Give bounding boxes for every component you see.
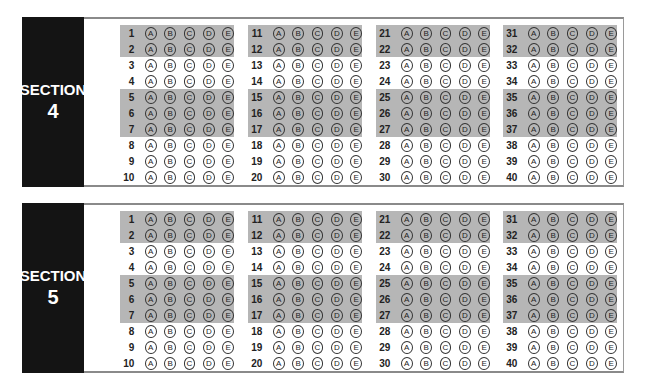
answer-bubble-b[interactable]: B — [420, 123, 432, 136]
answer-bubble-c[interactable]: C — [184, 357, 196, 370]
answer-bubble-d[interactable]: D — [459, 261, 471, 274]
answer-bubble-a[interactable]: A — [273, 59, 285, 72]
answer-bubble-e[interactable]: E — [222, 245, 234, 258]
answer-bubble-e[interactable]: E — [350, 123, 362, 136]
answer-bubble-e[interactable]: E — [222, 139, 234, 152]
answer-bubble-b[interactable]: B — [292, 341, 304, 354]
answer-bubble-a[interactable]: A — [401, 43, 413, 56]
answer-bubble-d[interactable]: D — [586, 213, 598, 226]
answer-bubble-e[interactable]: E — [478, 277, 490, 290]
answer-bubble-d[interactable]: D — [331, 341, 343, 354]
answer-bubble-b[interactable]: B — [547, 91, 559, 104]
answer-bubble-e[interactable]: E — [350, 43, 362, 56]
answer-bubble-d[interactable]: D — [459, 171, 471, 184]
answer-bubble-e[interactable]: E — [478, 229, 490, 242]
answer-bubble-a[interactable]: A — [273, 91, 285, 104]
answer-bubble-c[interactable]: C — [312, 325, 324, 338]
answer-bubble-d[interactable]: D — [459, 155, 471, 168]
answer-bubble-b[interactable]: B — [547, 309, 559, 322]
answer-bubble-c[interactable]: C — [312, 293, 324, 306]
answer-bubble-e[interactable]: E — [350, 357, 362, 370]
answer-bubble-b[interactable]: B — [164, 309, 176, 322]
answer-bubble-c[interactable]: C — [312, 261, 324, 274]
answer-bubble-d[interactable]: D — [459, 59, 471, 72]
answer-bubble-e[interactable]: E — [350, 341, 362, 354]
answer-bubble-b[interactable]: B — [420, 229, 432, 242]
answer-bubble-d[interactable]: D — [203, 139, 215, 152]
answer-bubble-d[interactable]: D — [459, 213, 471, 226]
answer-bubble-c[interactable]: C — [184, 123, 196, 136]
answer-bubble-e[interactable]: E — [605, 91, 617, 104]
answer-bubble-c[interactable]: C — [567, 309, 579, 322]
answer-bubble-b[interactable]: B — [420, 245, 432, 258]
answer-bubble-c[interactable]: C — [440, 59, 452, 72]
answer-bubble-c[interactable]: C — [184, 261, 196, 274]
answer-bubble-b[interactable]: B — [164, 293, 176, 306]
answer-bubble-d[interactable]: D — [459, 229, 471, 242]
answer-bubble-b[interactable]: B — [292, 261, 304, 274]
answer-bubble-a[interactable]: A — [273, 27, 285, 40]
answer-bubble-e[interactable]: E — [478, 309, 490, 322]
answer-bubble-c[interactable]: C — [184, 277, 196, 290]
answer-bubble-a[interactable]: A — [401, 277, 413, 290]
answer-bubble-d[interactable]: D — [331, 91, 343, 104]
answer-bubble-a[interactable]: A — [528, 261, 540, 274]
answer-bubble-c[interactable]: C — [184, 229, 196, 242]
answer-bubble-b[interactable]: B — [164, 123, 176, 136]
answer-bubble-e[interactable]: E — [605, 245, 617, 258]
answer-bubble-d[interactable]: D — [586, 171, 598, 184]
answer-bubble-e[interactable]: E — [222, 309, 234, 322]
answer-bubble-d[interactable]: D — [203, 27, 215, 40]
answer-bubble-d[interactable]: D — [331, 107, 343, 120]
answer-bubble-b[interactable]: B — [164, 325, 176, 338]
answer-bubble-c[interactable]: C — [567, 341, 579, 354]
answer-bubble-e[interactable]: E — [350, 155, 362, 168]
answer-bubble-a[interactable]: A — [401, 75, 413, 88]
answer-bubble-b[interactable]: B — [420, 341, 432, 354]
answer-bubble-b[interactable]: B — [292, 245, 304, 258]
answer-bubble-c[interactable]: C — [567, 261, 579, 274]
answer-bubble-a[interactable]: A — [145, 277, 157, 290]
answer-bubble-e[interactable]: E — [605, 229, 617, 242]
answer-bubble-e[interactable]: E — [478, 155, 490, 168]
answer-bubble-c[interactable]: C — [184, 155, 196, 168]
answer-bubble-e[interactable]: E — [478, 91, 490, 104]
answer-bubble-a[interactable]: A — [145, 325, 157, 338]
answer-bubble-b[interactable]: B — [164, 59, 176, 72]
answer-bubble-a[interactable]: A — [528, 213, 540, 226]
answer-bubble-b[interactable]: B — [292, 357, 304, 370]
answer-bubble-a[interactable]: A — [273, 277, 285, 290]
answer-bubble-d[interactable]: D — [203, 43, 215, 56]
answer-bubble-a[interactable]: A — [528, 123, 540, 136]
answer-bubble-d[interactable]: D — [331, 59, 343, 72]
answer-bubble-a[interactable]: A — [401, 91, 413, 104]
answer-bubble-b[interactable]: B — [420, 91, 432, 104]
answer-bubble-c[interactable]: C — [312, 75, 324, 88]
answer-bubble-a[interactable]: A — [145, 155, 157, 168]
answer-bubble-d[interactable]: D — [459, 107, 471, 120]
answer-bubble-d[interactable]: D — [459, 75, 471, 88]
answer-bubble-b[interactable]: B — [292, 229, 304, 242]
answer-bubble-e[interactable]: E — [350, 245, 362, 258]
answer-bubble-a[interactable]: A — [528, 91, 540, 104]
answer-bubble-d[interactable]: D — [331, 75, 343, 88]
answer-bubble-d[interactable]: D — [331, 139, 343, 152]
answer-bubble-a[interactable]: A — [273, 309, 285, 322]
answer-bubble-a[interactable]: A — [528, 293, 540, 306]
answer-bubble-a[interactable]: A — [145, 261, 157, 274]
answer-bubble-d[interactable]: D — [586, 139, 598, 152]
answer-bubble-c[interactable]: C — [567, 107, 579, 120]
answer-bubble-b[interactable]: B — [164, 75, 176, 88]
answer-bubble-d[interactable]: D — [331, 123, 343, 136]
answer-bubble-e[interactable]: E — [478, 261, 490, 274]
answer-bubble-b[interactable]: B — [164, 213, 176, 226]
answer-bubble-e[interactable]: E — [605, 75, 617, 88]
answer-bubble-a[interactable]: A — [528, 229, 540, 242]
answer-bubble-b[interactable]: B — [420, 213, 432, 226]
answer-bubble-a[interactable]: A — [145, 341, 157, 354]
answer-bubble-c[interactable]: C — [567, 59, 579, 72]
answer-bubble-e[interactable]: E — [605, 27, 617, 40]
answer-bubble-b[interactable]: B — [164, 171, 176, 184]
answer-bubble-c[interactable]: C — [567, 213, 579, 226]
answer-bubble-e[interactable]: E — [605, 107, 617, 120]
